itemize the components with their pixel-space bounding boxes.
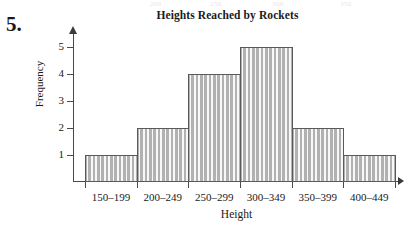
x-axis-arrowhead-icon — [398, 177, 404, 185]
y-tick-label: 5 — [42, 41, 64, 52]
histogram-bar — [85, 155, 138, 182]
y-tick-mark — [67, 155, 73, 156]
x-category-label: 150–199 — [83, 191, 139, 204]
x-category-label: 200–249 — [135, 191, 191, 204]
x-tick-mark — [395, 182, 396, 188]
y-tick-label: 4 — [42, 68, 64, 79]
x-tick-mark — [240, 182, 241, 188]
histogram-bar — [137, 128, 190, 182]
y-tick-mark — [67, 101, 73, 102]
y-tick-label: 1 — [42, 149, 64, 160]
y-tick-mark — [67, 128, 73, 129]
x-category-label: 250–299 — [186, 191, 242, 204]
y-tick-label: 3 — [42, 95, 64, 106]
histogram-bar — [240, 47, 293, 182]
y-tick-label: 2 — [42, 122, 64, 133]
y-axis-arrowhead-icon — [69, 26, 77, 34]
y-tick-mark — [67, 74, 73, 75]
x-tick-mark — [85, 182, 86, 188]
x-tick-mark — [292, 182, 293, 188]
y-axis-title: Frequency — [33, 44, 45, 124]
y-axis-line — [73, 33, 74, 182]
histogram-plot: 1 2 3 4 5 Frequency 150–199 200–249 250–… — [0, 0, 407, 231]
histogram-bar — [188, 74, 241, 182]
histogram-bar — [343, 155, 396, 182]
x-axis-title: Height — [73, 208, 400, 220]
y-tick-mark — [67, 47, 73, 48]
x-category-label: 350–399 — [290, 191, 346, 204]
x-tick-mark — [188, 182, 189, 188]
x-category-label: 300–349 — [238, 191, 294, 204]
x-tick-mark — [343, 182, 344, 188]
x-tick-mark — [137, 182, 138, 188]
x-category-label: 400–449 — [341, 191, 397, 204]
histogram-bar — [292, 128, 345, 182]
